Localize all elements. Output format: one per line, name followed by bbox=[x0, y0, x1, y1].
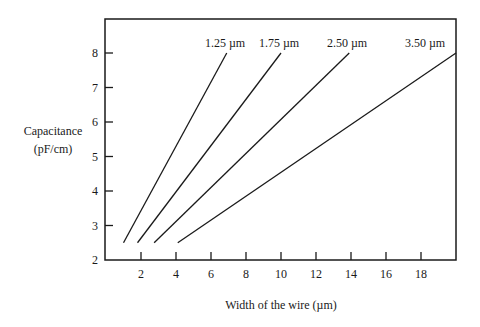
x-tick-label: 2 bbox=[138, 267, 144, 281]
y-axis-label: (pF/cm) bbox=[34, 142, 73, 156]
x-tick-label: 4 bbox=[173, 267, 179, 281]
x-tick-label: 18 bbox=[415, 267, 427, 281]
series-label: 1.25 µm bbox=[205, 36, 246, 50]
y-tick-label: 7 bbox=[92, 81, 98, 95]
x-tick-label: 14 bbox=[345, 267, 357, 281]
series-label: 1.75 µm bbox=[259, 36, 300, 50]
x-tick-label: 12 bbox=[310, 267, 322, 281]
y-tick-label: 5 bbox=[92, 150, 98, 164]
y-tick-label: 6 bbox=[92, 115, 98, 129]
y-tick-label: 4 bbox=[92, 184, 98, 198]
x-tick-label: 6 bbox=[208, 267, 214, 281]
y-tick-label: 3 bbox=[92, 219, 98, 233]
x-axis-label: Width of the wire (µm) bbox=[225, 298, 337, 312]
series-line bbox=[178, 53, 456, 243]
y-tick-label: 2 bbox=[92, 253, 98, 267]
x-tick-label: 10 bbox=[275, 267, 287, 281]
series-line bbox=[124, 53, 227, 243]
x-tick-label: 16 bbox=[380, 267, 392, 281]
y-tick-label: 8 bbox=[92, 46, 98, 60]
series-line bbox=[154, 53, 349, 243]
chart: 2345678246810121416181.25 µm1.75 µm2.50 … bbox=[0, 0, 480, 327]
plot-frame bbox=[105, 19, 456, 260]
series-label: 2.50 µm bbox=[327, 36, 368, 50]
series-line bbox=[138, 53, 282, 243]
series-label: 3.50 µm bbox=[405, 36, 446, 50]
x-tick-label: 8 bbox=[243, 267, 249, 281]
y-axis-label: Capacitance bbox=[24, 124, 83, 138]
